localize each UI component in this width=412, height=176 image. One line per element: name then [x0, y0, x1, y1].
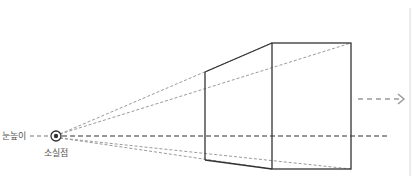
- bottom-side-edge: [205, 160, 272, 169]
- vanishing-point-icon: [51, 131, 61, 141]
- vanishing-point-label: 소실점: [44, 146, 68, 159]
- front-face: [272, 43, 351, 169]
- eye-level-label: 눈높이: [2, 129, 26, 142]
- box: [205, 43, 351, 169]
- top-side-edge: [205, 43, 272, 72]
- perspective-diagram: 눈높이 소실점: [0, 0, 412, 176]
